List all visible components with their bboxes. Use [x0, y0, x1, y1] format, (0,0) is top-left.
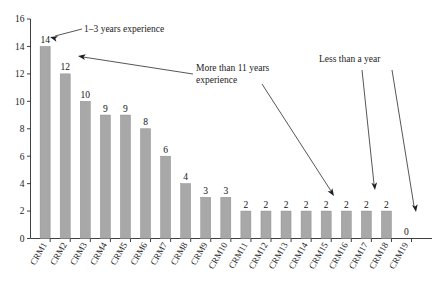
x-axis-category-label: CRM19 — [387, 240, 410, 271]
bar — [361, 211, 371, 238]
bar-value-label: 8 — [143, 117, 148, 127]
y-tick-label: 8 — [20, 124, 25, 134]
bar-value-label: 4 — [183, 172, 188, 182]
x-axis-category-label: CRM3 — [68, 240, 89, 267]
chart-canvas: 0246810121416 1412109986433222222220 CRM… — [0, 0, 444, 289]
bar-value-label: 2 — [344, 200, 349, 210]
bar-value-label: 2 — [384, 200, 389, 210]
bar-value-label: 9 — [103, 104, 108, 114]
y-tick-label: 2 — [20, 206, 25, 216]
bar — [201, 197, 211, 238]
annotation-leader-line — [55, 29, 82, 36]
bar-value-label: 14 — [40, 35, 50, 45]
bar — [381, 211, 391, 238]
x-axis-category-label: CRM4 — [88, 240, 109, 267]
annotation-label: More than 11 yearsexperience — [196, 63, 270, 85]
bar — [321, 211, 331, 238]
bar — [181, 184, 191, 239]
x-axis-category-label: CRM1 — [28, 241, 49, 267]
x-axis-category-label: CRM7 — [148, 240, 169, 267]
bar-value-label: 2 — [324, 200, 329, 210]
bar — [120, 115, 130, 238]
annotation-label: 1–3 years experience — [84, 24, 164, 34]
bar-chart: 0246810121416 1412109986433222222220 CRM… — [0, 0, 444, 289]
x-axis-ticks — [50, 239, 411, 243]
annotation-arrow-icon — [327, 188, 336, 197]
bar — [341, 211, 351, 238]
bar — [301, 211, 311, 238]
x-axis-category-label: CRM5 — [108, 240, 129, 267]
y-tick-label: 4 — [20, 179, 25, 189]
x-axis-category-labels: CRM1CRM2CRM3CRM4CRM5CRM6CRM7CRM8CRM9CRM1… — [28, 240, 411, 271]
y-tick-label: 14 — [15, 42, 25, 52]
bar — [241, 211, 251, 238]
annotation-arrow-icon — [78, 53, 86, 60]
annotation-arrow-icon — [371, 182, 378, 190]
bar — [261, 211, 271, 238]
bar-value-label: 2 — [284, 200, 289, 210]
bar-value-label: 2 — [304, 200, 309, 210]
x-axis-category-label: CRM2 — [48, 241, 69, 267]
bar — [141, 129, 151, 239]
y-tick-label: 16 — [15, 14, 25, 24]
x-axis-category-label: CRM9 — [189, 240, 210, 267]
annotation-leader-line — [262, 84, 331, 191]
y-tick-label: 0 — [20, 234, 25, 244]
bar-value-label: 6 — [163, 145, 168, 155]
bar-value-label: 12 — [60, 62, 70, 72]
annotation-leader-line — [362, 70, 374, 184]
bar-value-label: 2 — [244, 200, 249, 210]
x-axis-category-label: CRM8 — [168, 240, 189, 267]
bar-value-label: 3 — [223, 186, 228, 196]
bar — [161, 156, 171, 238]
annotation-leader-line — [392, 70, 414, 206]
bar-value-label: 10 — [81, 90, 91, 100]
bar — [100, 115, 110, 238]
x-axis-category-label: CRM6 — [128, 240, 149, 267]
y-tick-label: 10 — [15, 97, 25, 107]
y-axis-ticks: 0246810121416 — [15, 14, 31, 244]
bar-value-label: 0 — [404, 227, 409, 237]
bar-value-label: 2 — [364, 200, 369, 210]
bar-value-label: 9 — [123, 104, 128, 114]
bar — [80, 101, 90, 238]
annotation-label: Less than a year — [319, 54, 381, 64]
bar — [40, 46, 50, 238]
bar — [281, 211, 291, 238]
x-axis — [31, 239, 433, 243]
bar — [221, 197, 231, 238]
y-tick-label: 12 — [15, 69, 25, 79]
y-axis: 0246810121416 — [15, 14, 31, 244]
bar-value-label: 2 — [264, 200, 269, 210]
annotation-arrow-icon — [412, 204, 419, 212]
bar-value-label: 3 — [203, 186, 208, 196]
bar — [60, 74, 70, 239]
annotation-leader-line — [83, 57, 193, 74]
y-tick-label: 6 — [20, 152, 25, 162]
